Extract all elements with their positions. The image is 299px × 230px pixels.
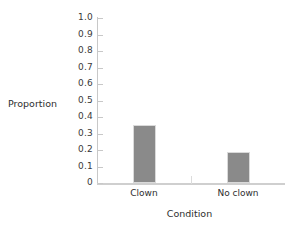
y-axis-tick-label-wrap: 0.5 [55, 95, 93, 106]
x-axis-title: Condition [0, 208, 299, 219]
bar [227, 152, 250, 183]
y-axis-tick-label: 0.8 [59, 45, 93, 55]
y-axis-tick [98, 183, 103, 184]
plot-area [97, 18, 285, 183]
y-axis-tick-label: 0.9 [59, 29, 93, 39]
category-label: Clown [104, 188, 184, 198]
bar [133, 125, 156, 183]
category-divider-tick [191, 176, 192, 184]
y-axis-tick-label: 0.7 [59, 62, 93, 72]
y-axis-tick-label-wrap: 0.8 [55, 45, 93, 56]
y-axis-tick-label-wrap: 0.4 [55, 111, 93, 122]
y-axis-tick-label: 0.2 [59, 144, 93, 154]
y-axis-tick-label-wrap: 0.6 [55, 78, 93, 89]
bar-chart: 1.00.90.80.70.60.50.40.30.20.10 Proporti… [0, 0, 299, 230]
y-axis-tick-label: 0.6 [59, 78, 93, 88]
y-axis-tick-label: 0 [59, 177, 93, 187]
y-axis-tick-label: 0.3 [59, 128, 93, 138]
y-axis-tick-label: 0.5 [59, 95, 93, 105]
y-axis-tick-label-wrap: 0.3 [55, 128, 93, 139]
y-axis-tick-label: 0.1 [59, 161, 93, 171]
y-axis-tick-label-wrap: 0.1 [55, 161, 93, 172]
y-axis-tick-label-wrap: 0 [55, 177, 93, 188]
y-axis-title: Proportion [8, 98, 57, 109]
y-axis-tick-label: 1.0 [59, 12, 93, 22]
y-axis-tick-label: 0.4 [59, 111, 93, 121]
y-axis-tick-label-wrap: 1.0 [55, 12, 93, 23]
y-axis-tick-label-wrap: 0.9 [55, 29, 93, 40]
category-label: No clown [198, 188, 278, 198]
y-axis-tick-label-wrap: 0.7 [55, 62, 93, 73]
y-axis-tick-label-wrap: 0.2 [55, 144, 93, 155]
